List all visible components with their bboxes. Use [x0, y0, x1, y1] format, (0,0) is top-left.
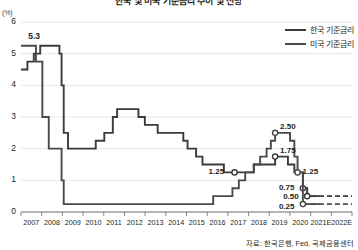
data-point-label: 1.75 — [280, 146, 296, 155]
y-tick-label: 6 — [2, 17, 16, 26]
data-point-label: 0.75 — [279, 183, 295, 192]
y-tick-label: 2 — [2, 144, 16, 153]
legend-swatch-us-line — [285, 43, 306, 45]
data-point-label: 2.50 — [280, 122, 296, 131]
legend-swatch-korea-line — [285, 29, 306, 31]
y-tick-label: 1 — [2, 175, 16, 184]
data-point-label: 1.25 — [303, 167, 319, 176]
legend-item-us: 미국 기준금리 — [285, 38, 354, 49]
source-note: 자료: 한국은행, Fed, 국제금융센터 — [246, 238, 354, 248]
data-point-label: 0.25 — [279, 202, 295, 211]
y-tick-label: 0 — [2, 207, 16, 216]
x-tick-label: 2022E — [326, 218, 358, 227]
legend-label-korea: 한국 기준금리 — [310, 24, 354, 35]
y-tick-label: 4 — [2, 80, 16, 89]
data-point-label: 0.50 — [283, 192, 299, 201]
legend-label-us: 미국 기준금리 — [310, 38, 354, 49]
y-tick-label: 5 — [2, 49, 16, 58]
interest-rate-chart: 한국 및 미국 기준금리 추이 및 전망 (%) 0123456 2007200… — [0, 0, 358, 250]
y-tick-label: 3 — [2, 112, 16, 121]
legend-item-korea: 한국 기준금리 — [285, 24, 354, 35]
data-point-label: 1.25 — [209, 167, 225, 176]
chart-legend: 한국 기준금리 미국 기준금리 — [285, 24, 354, 49]
peak-annotation-label: 5.3 — [28, 31, 40, 41]
